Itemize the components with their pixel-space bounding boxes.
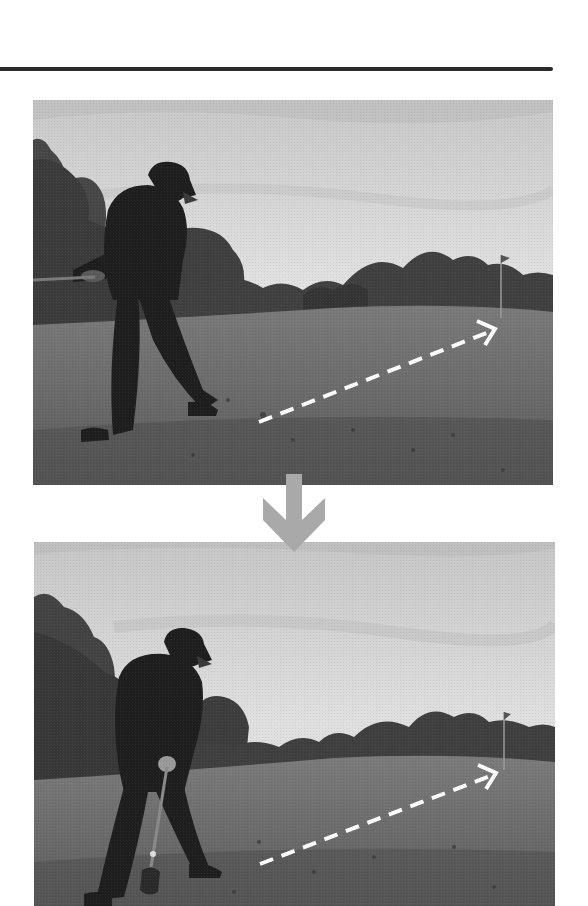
down-arrow-icon: [262, 474, 326, 554]
header-rule: [0, 67, 553, 71]
photo-golfer-address: [34, 542, 555, 906]
photo-golfer-finish: [33, 100, 553, 485]
